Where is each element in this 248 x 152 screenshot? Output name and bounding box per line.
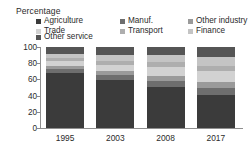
table-row[interactable] [197,47,235,128]
legend-label: Other service [44,33,93,41]
bar-segment [96,80,134,128]
y-tick-label: 60 [28,75,37,84]
legend-item-other-service[interactable]: Other service [36,33,246,41]
bar-segment [197,47,235,57]
legend-swatch-icon [36,19,41,24]
x-axis-labels: 1995200320082017 [40,131,241,147]
x-tick-label: 1995 [38,133,92,143]
bar-segment [197,71,235,82]
bar-segment [96,47,134,55]
bar-segment [147,47,185,55]
y-tick-mark [37,47,40,48]
table-row[interactable] [147,47,185,128]
bar-segment [46,73,84,128]
x-tick-label: 2003 [88,133,142,143]
legend-swatch-icon [188,19,193,24]
legend-label: Agriculture [44,17,83,25]
plot-area [40,47,241,128]
chart-figure: Percentage AgricultureManuf.Other indust… [0,0,248,152]
x-axis-line [38,128,243,129]
legend-swatch-icon [120,19,125,24]
legend-item-other-industry[interactable]: Other industry [188,17,248,25]
legend-label: Other industry [196,17,247,25]
y-axis-title: Percentage [16,6,60,16]
legend-swatch-icon [36,35,41,40]
bar-segment [147,55,185,62]
y-axis-labels: 020406080100 [12,41,37,134]
bar-segment [147,87,185,128]
bar-segment [147,67,185,76]
y-tick-label: 100 [23,43,37,52]
legend-item-agriculture[interactable]: Agriculture [36,17,120,25]
y-tick-mark [37,128,40,129]
bar-segment [197,88,235,95]
bar-segment [197,95,235,128]
bar-group [40,47,241,128]
legend-label: Manuf. [128,17,153,25]
x-tick-label: 2017 [189,133,243,143]
y-tick-mark [37,63,40,64]
y-tick-mark [37,112,40,113]
y-tick-label: 40 [28,91,37,100]
table-row[interactable] [46,47,84,128]
y-tick-label: 20 [28,107,37,116]
chart-legend-row3: Other service [36,33,246,41]
bar-segment [197,57,235,66]
table-row[interactable] [96,47,134,128]
y-tick-mark [37,79,40,80]
x-tick-label: 2008 [139,133,193,143]
y-tick-mark [37,96,40,97]
y-tick-label: 80 [28,59,37,68]
legend-item-manuf[interactable]: Manuf. [120,17,188,25]
